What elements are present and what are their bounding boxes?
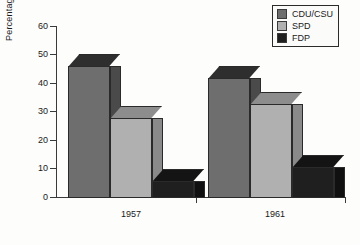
bar-side-face: [334, 167, 345, 198]
bar-1957-spd[interactable]: [110, 106, 152, 198]
bar-1961-fdp[interactable]: [292, 155, 334, 198]
bar-side-face: [194, 181, 205, 198]
bar-1957-cdu-csu[interactable]: [68, 54, 110, 198]
bar-1961-spd[interactable]: [250, 92, 292, 198]
legend-item-cdu-csu: CDU/CSU: [277, 9, 333, 19]
legend-item-spd: SPD: [277, 21, 333, 31]
legend-swatch-icon: [277, 9, 287, 19]
bar-front-face: [152, 181, 194, 198]
legend-swatch-icon: [277, 21, 287, 31]
legend-swatch-icon: [277, 33, 287, 43]
bar-chart: CDU/CSU SPD FDP Percentage 60 50 40 30 2…: [0, 0, 360, 245]
legend-label-fdp: FDP: [292, 34, 310, 43]
chart-legend: CDU/CSU SPD FDP: [272, 5, 339, 47]
bar-front-face: [68, 66, 110, 198]
legend-label-spd: SPD: [292, 22, 311, 31]
x-tick-end: [345, 198, 346, 203]
bar-front-face: [292, 167, 334, 198]
legend-item-fdp: FDP: [277, 33, 333, 43]
bar-1957-fdp[interactable]: [152, 169, 194, 198]
bar-front-face: [208, 78, 250, 198]
x-tick-label-1961: 1961: [240, 209, 310, 219]
x-tick-label-1957: 1957: [96, 209, 166, 219]
bar-front-face: [250, 104, 292, 198]
legend-label-cdu-csu: CDU/CSU: [292, 10, 333, 19]
x-tick-divider: [196, 198, 197, 203]
bar-1961-cdu-csu[interactable]: [208, 66, 250, 198]
bar-front-face: [110, 118, 152, 198]
